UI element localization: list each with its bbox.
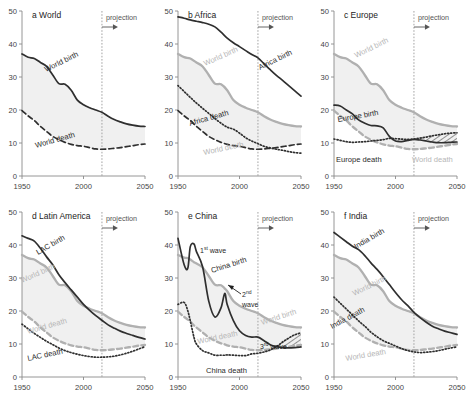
panel-title-f: f India — [344, 211, 367, 221]
series-label-c-3: World death — [412, 155, 453, 164]
y-tick-label-e-40: 40 — [165, 241, 173, 250]
y-tick-label-b-0: 0 — [169, 172, 173, 181]
y-tick-label-b-50: 50 — [165, 7, 173, 16]
y-tick-label-d-10: 10 — [9, 340, 17, 349]
panel-title-d: d Latin America — [32, 211, 91, 221]
panel-title-c: c Europe — [344, 10, 378, 20]
x-tick-label-f-1950: 1950 — [326, 383, 343, 392]
x-tick-label-c-2000: 2000 — [387, 182, 404, 191]
x-tick-label-f-2050: 2050 — [449, 383, 466, 392]
panel-e-svg: 01020304050195020002050projectione China… — [156, 201, 312, 403]
y-tick-label-a-40: 40 — [9, 40, 17, 49]
x-tick-label-a-2050: 2050 — [137, 182, 154, 191]
y-tick-label-e-10: 10 — [165, 340, 173, 349]
y-tick-label-a-0: 0 — [13, 172, 17, 181]
panel-c-europe: 01020304050195020002050projectionc Europ… — [312, 0, 468, 201]
annotation-second-wave: 2nd — [242, 289, 252, 298]
panel-b-svg: 01020304050195020002050projectionb Afric… — [156, 0, 312, 201]
series-label-e-0: China birth — [210, 255, 248, 275]
panel-d-plot: 01020304050195020002050projectiond Latin… — [9, 208, 154, 392]
series-label-f-0: India birth — [353, 226, 386, 250]
series-label-e-1: China death — [206, 366, 247, 375]
y-tick-label-c-20: 20 — [321, 106, 329, 115]
x-tick-label-e-2050: 2050 — [293, 383, 310, 392]
x-tick-label-d-2050: 2050 — [137, 383, 154, 392]
y-tick-label-e-30: 30 — [165, 274, 173, 283]
panel-a-svg: 01020304050195020002050projectiona World… — [0, 0, 156, 201]
series-label-c-0: World birth — [353, 36, 390, 60]
y-tick-label-c-10: 10 — [321, 139, 329, 148]
x-tick-label-c-1950: 1950 — [326, 182, 343, 191]
x-tick-label-c-2050: 2050 — [449, 182, 466, 191]
panel-d-latin-america: 01020304050195020002050projectiond Latin… — [0, 201, 156, 402]
y-tick-label-d-50: 50 — [9, 208, 17, 217]
series-label-b-2: World birth — [202, 45, 239, 68]
y-tick-label-b-20: 20 — [165, 106, 173, 115]
projection-label-b: projection — [262, 13, 293, 22]
y-tick-label-e-20: 20 — [165, 307, 173, 316]
projection-label-c: projection — [418, 13, 449, 22]
panel-e-plot: 01020304050195020002050projectione China… — [165, 208, 310, 392]
panel-f-india: 01020304050195020002050projectionf India… — [312, 201, 468, 402]
y-tick-label-c-30: 30 — [321, 73, 329, 82]
y-tick-label-d-40: 40 — [9, 241, 17, 250]
projection-label-d: projection — [106, 214, 137, 223]
y-tick-label-c-50: 50 — [321, 7, 329, 16]
x-tick-label-b-2000: 2000 — [231, 182, 248, 191]
x-tick-label-b-2050: 2050 — [293, 182, 310, 191]
y-tick-label-a-30: 30 — [9, 73, 17, 82]
panel-e-china: 01020304050195020002050projectione China… — [156, 201, 312, 402]
y-tick-label-f-40: 40 — [321, 241, 329, 250]
annotation-first-wave: 1st wave — [200, 245, 226, 254]
panel-b-plot: 01020304050195020002050projectionb Afric… — [165, 7, 310, 191]
y-tick-label-e-0: 0 — [169, 373, 173, 382]
y-tick-label-a-50: 50 — [9, 7, 17, 16]
y-tick-label-e-50: 50 — [165, 208, 173, 217]
y-tick-label-f-50: 50 — [321, 208, 329, 217]
series-label-b-0: Africa birth — [257, 48, 294, 72]
x-tick-label-a-2000: 2000 — [75, 182, 92, 191]
population-figure: 01020304050195020002050projectiona World… — [0, 0, 469, 403]
y-tick-label-f-20: 20 — [321, 307, 329, 316]
y-tick-label-b-30: 30 — [165, 73, 173, 82]
series-label-f-3: World death — [345, 347, 387, 363]
panel-title-e: e China — [188, 211, 218, 221]
panel-title-a: a World — [32, 10, 61, 20]
x-tick-label-e-1950: 1950 — [170, 383, 187, 392]
annotation-second-wave-cont: wave — [241, 301, 258, 308]
panel-f-plot: 01020304050195020002050projectionf India… — [321, 208, 466, 392]
series-label-a-0: World birth — [43, 50, 80, 74]
series-label-c-2: Europe death — [336, 155, 382, 164]
projection-label-e: projection — [262, 214, 293, 223]
panel-c-svg: 01020304050195020002050projectionc Europ… — [312, 0, 469, 201]
x-tick-label-d-1950: 1950 — [14, 383, 31, 392]
y-tick-label-d-20: 20 — [9, 307, 17, 316]
y-tick-label-f-10: 10 — [321, 340, 329, 349]
y-tick-label-f-30: 30 — [321, 274, 329, 283]
y-tick-label-d-30: 30 — [9, 274, 17, 283]
x-tick-label-e-2000: 2000 — [231, 383, 248, 392]
y-tick-label-b-40: 40 — [165, 40, 173, 49]
x-tick-label-b-1950: 1950 — [170, 182, 187, 191]
y-tick-label-c-0: 0 — [325, 172, 329, 181]
panel-b-africa: 01020304050195020002050projectionb Afric… — [156, 0, 312, 201]
series-label-d-0: LAC birth — [35, 233, 67, 257]
panel-c-plot: 01020304050195020002050projectionc Europ… — [321, 7, 466, 191]
y-tick-label-f-0: 0 — [325, 373, 329, 382]
y-tick-label-d-0: 0 — [13, 373, 17, 382]
panel-title-b: b Africa — [188, 10, 217, 20]
y-tick-label-a-20: 20 — [9, 106, 17, 115]
x-tick-label-f-2000: 2000 — [387, 383, 404, 392]
x-tick-label-d-2000: 2000 — [75, 383, 92, 392]
y-tick-label-c-40: 40 — [321, 40, 329, 49]
y-tick-label-a-10: 10 — [9, 139, 17, 148]
panel-d-svg: 01020304050195020002050projectiond Latin… — [0, 201, 156, 403]
projection-label-f: projection — [418, 214, 449, 223]
projection-label-a: projection — [106, 13, 137, 22]
panel-a-plot: 01020304050195020002050projectiona World… — [9, 7, 154, 191]
panel-a-world: 01020304050195020002050projectiona World… — [0, 0, 156, 201]
y-tick-label-b-10: 10 — [165, 139, 173, 148]
panel-f-svg: 01020304050195020002050projectionf India… — [312, 201, 469, 403]
series-label-d-3: LAC death — [27, 347, 64, 363]
x-tick-label-a-1950: 1950 — [14, 182, 31, 191]
